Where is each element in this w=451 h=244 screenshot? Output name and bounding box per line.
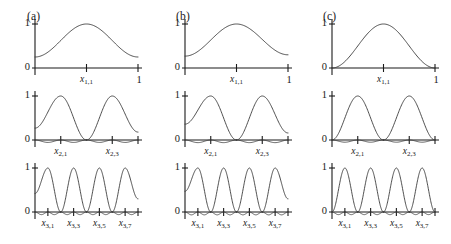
node-label-x35: x3,5 bbox=[382, 218, 410, 228]
negative-lobe-1 bbox=[332, 140, 358, 142]
negative-lobe-1 bbox=[35, 212, 48, 215]
node-label-sub: 2,3 bbox=[407, 150, 416, 158]
basis-bump-2 bbox=[211, 168, 237, 212]
node-label-sub: 3,3 bbox=[368, 222, 377, 230]
axes bbox=[182, 91, 292, 147]
y-tick-label-0: 0 bbox=[314, 205, 327, 216]
node-label-x33: x3,3 bbox=[210, 218, 238, 228]
node-label-base: x bbox=[191, 218, 195, 228]
node-label-sub: 3,1 bbox=[196, 222, 205, 230]
axes bbox=[182, 19, 292, 75]
negative-lobe-8 bbox=[275, 212, 288, 215]
node-label-sub: 3,7 bbox=[420, 222, 429, 230]
node-label-x21: x2,1 bbox=[344, 146, 372, 156]
negative-lobe-6 bbox=[396, 212, 409, 215]
negative-lobe-3 bbox=[237, 140, 263, 143]
y-tick-label-1: 1 bbox=[314, 161, 327, 172]
node-label-sub: 3,3 bbox=[71, 222, 80, 230]
basis-bump-2 bbox=[358, 168, 384, 212]
y-tick-label-0: 0 bbox=[167, 133, 180, 144]
curve-group bbox=[35, 168, 138, 215]
basis-bump-3 bbox=[87, 168, 113, 212]
node-label-sub: 2,1 bbox=[355, 150, 364, 158]
node-label-sub: 3,5 bbox=[394, 222, 403, 230]
node-label-base: x bbox=[338, 218, 342, 228]
negative-lobe-4 bbox=[371, 212, 384, 215]
basis-bump-3 bbox=[384, 168, 410, 212]
node-label-sub: 1,1 bbox=[84, 78, 93, 86]
y-tick-label-0: 0 bbox=[17, 61, 30, 72]
negative-lobe-1 bbox=[332, 212, 345, 215]
node-label-x21: x2,1 bbox=[197, 146, 225, 156]
node-label-x37: x3,7 bbox=[408, 218, 436, 228]
negative-lobe-6 bbox=[99, 212, 112, 215]
node-label-sub: 3,3 bbox=[221, 222, 230, 230]
curve-group bbox=[35, 24, 138, 57]
curve-group bbox=[332, 24, 435, 68]
node-label-x11: x1,1 bbox=[223, 74, 251, 84]
y-tick-label-1: 1 bbox=[17, 89, 30, 100]
node-label-sub: 2,3 bbox=[260, 150, 269, 158]
subplot-c-level1 bbox=[0, 0, 451, 244]
axes bbox=[32, 19, 142, 75]
node-label-sub: 1,1 bbox=[381, 78, 390, 86]
axes bbox=[32, 163, 142, 219]
negative-lobe-3 bbox=[384, 140, 410, 142]
axes bbox=[182, 163, 292, 219]
figure-root: (a)101x1,110x2,1x2,310x3,1x3,3x3,5x3,7(b… bbox=[0, 0, 451, 244]
curve-group bbox=[185, 24, 288, 56]
x-tick-label-right: 1 bbox=[430, 74, 442, 85]
negative-lobe-4 bbox=[112, 140, 138, 142]
node-label-sub: 2,1 bbox=[58, 150, 67, 158]
negative-lobe-6 bbox=[249, 212, 262, 215]
negative-lobe-2 bbox=[345, 212, 358, 215]
subplot-b-level2 bbox=[0, 0, 451, 244]
axes bbox=[32, 91, 142, 147]
axes bbox=[329, 19, 439, 75]
subplot-a-level3 bbox=[0, 0, 451, 244]
basis-bump-1 bbox=[35, 24, 138, 57]
negative-lobe-3 bbox=[358, 212, 371, 215]
basis-bump-2 bbox=[87, 96, 139, 140]
y-tick-label-0: 0 bbox=[17, 133, 30, 144]
node-label-sub: 3,7 bbox=[273, 222, 282, 230]
y-tick-label-0: 0 bbox=[167, 61, 180, 72]
node-label-sub: 3,1 bbox=[343, 222, 352, 230]
node-label-x11: x1,1 bbox=[370, 74, 398, 84]
node-label-x33: x3,3 bbox=[357, 218, 385, 228]
node-label-sub: 3,5 bbox=[97, 222, 106, 230]
subplot-a-level2 bbox=[0, 0, 451, 244]
basis-bump-1 bbox=[332, 168, 358, 212]
basis-bump-1 bbox=[185, 96, 237, 140]
negative-lobe-4 bbox=[74, 212, 87, 215]
negative-lobe-4 bbox=[224, 212, 237, 215]
basis-bump-2 bbox=[61, 168, 87, 212]
negative-lobe-2 bbox=[48, 212, 61, 215]
negative-lobe-3 bbox=[61, 212, 74, 215]
node-label-sub: 2,3 bbox=[110, 150, 119, 158]
negative-lobe-8 bbox=[125, 212, 138, 215]
node-label-x35: x3,5 bbox=[235, 218, 263, 228]
y-tick-label-1: 1 bbox=[314, 17, 327, 28]
node-label-x31: x3,1 bbox=[184, 218, 212, 228]
node-label-sub: 2,1 bbox=[208, 150, 217, 158]
negative-lobe-7 bbox=[112, 212, 125, 215]
node-label-sub: 3,5 bbox=[247, 222, 256, 230]
negative-lobe-2 bbox=[198, 212, 211, 215]
curve-group bbox=[35, 96, 138, 142]
y-tick-label-1: 1 bbox=[17, 17, 30, 28]
node-label-x23: x2,3 bbox=[98, 146, 126, 156]
curve-group bbox=[185, 96, 288, 143]
y-tick-label-0: 0 bbox=[314, 133, 327, 144]
negative-lobe-2 bbox=[211, 140, 237, 143]
basis-bump-1 bbox=[185, 24, 288, 56]
subplot-c-level2 bbox=[0, 0, 451, 244]
y-tick-label-1: 1 bbox=[17, 161, 30, 172]
basis-bump-4 bbox=[409, 168, 435, 212]
node-label-x35: x3,5 bbox=[85, 218, 113, 228]
node-label-x11: x1,1 bbox=[73, 74, 101, 84]
subplot-c-level3 bbox=[0, 0, 451, 244]
subplot-b-level3 bbox=[0, 0, 451, 244]
node-label-x31: x3,1 bbox=[34, 218, 62, 228]
y-tick-label-0: 0 bbox=[167, 205, 180, 216]
